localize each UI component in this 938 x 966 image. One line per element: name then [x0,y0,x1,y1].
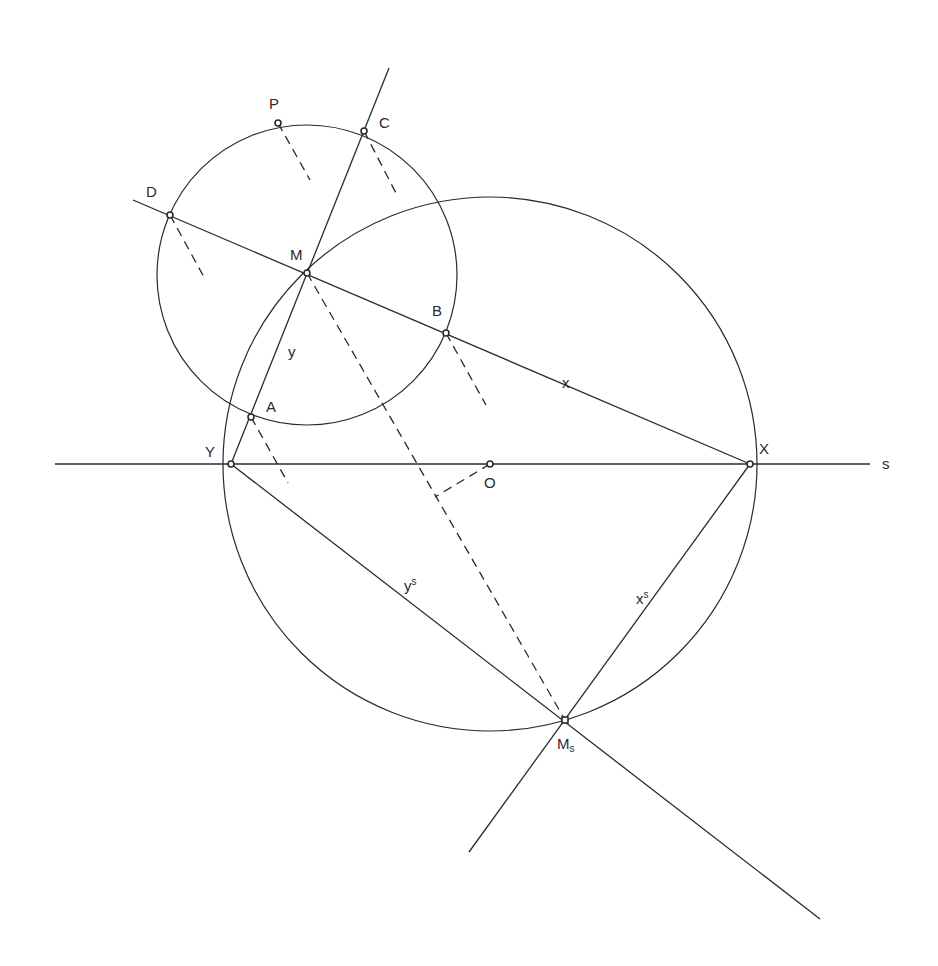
label-a: A [266,398,276,415]
label-p: P [269,95,279,112]
label-b: B [432,302,442,319]
line-ys [231,464,820,919]
line-xs [469,464,750,852]
point-y [228,461,234,467]
label-d: D [146,183,157,200]
point-x [747,461,753,467]
dashed-perpendicular-o [435,464,490,497]
dashed-tick-d [170,215,205,279]
label-c: C [379,114,390,131]
label-y-point: Y [205,443,215,460]
point-b [443,330,449,336]
dashed-tick-b [446,333,486,405]
label-x-point: X [759,440,769,457]
label-s: s [882,455,890,472]
point-p [275,120,281,126]
label-xs: xs [636,589,649,607]
label-ys: ys [404,576,417,594]
line-y [231,68,389,464]
label-y-segment: y [288,343,296,360]
label-ys-sup: s [412,576,417,587]
point-a [248,414,254,420]
label-xs-sup: s [644,589,649,600]
dashed-tick-a [251,417,288,483]
point-c [361,128,367,134]
point-m [304,270,310,276]
label-x-segment: x [562,374,570,391]
label-ms: Ms [557,735,575,754]
label-ms-base: M [557,735,570,752]
label-ms-sub: s [570,743,575,754]
point-d [167,212,173,218]
label-m: M [290,246,303,263]
geometry-diagram: P C D M B y x A Y O X s ys xs Ms [0,0,938,966]
label-o: O [484,474,496,491]
point-ms [562,717,568,723]
dashed-tick-c [364,131,398,197]
dashed-tick-p [278,123,310,180]
point-o [487,461,493,467]
